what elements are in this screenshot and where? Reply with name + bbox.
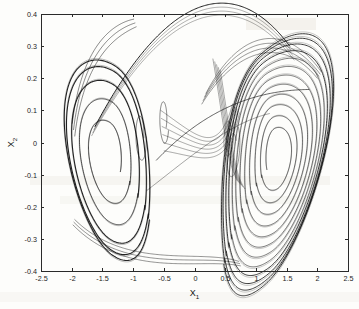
y-tick-label: -0.1 [25, 171, 37, 180]
y-axis-label: X2 [6, 137, 18, 147]
trajectory-segment [242, 83, 313, 238]
trajectory-segment [64, 60, 150, 260]
trajectory-segment [94, 7, 291, 129]
trajectory-segment [66, 65, 149, 256]
x-axis-label: X1 [190, 288, 200, 300]
y-tick-label: 0.4 [27, 10, 37, 19]
trajectory-segment [202, 53, 317, 104]
trajectory-segment [160, 102, 169, 143]
y-tick-label: 0.2 [27, 74, 37, 83]
trajectory-segment [73, 225, 240, 266]
trajectory-segment [88, 120, 130, 204]
x-tick-label: 1 [255, 274, 259, 283]
trajectory-segment [79, 99, 137, 225]
x-tick-label: 1.5 [283, 274, 293, 283]
y-tick-label: 0.3 [27, 42, 37, 51]
x-tick-label: -1.5 [96, 274, 108, 283]
y-tick-label: 0.1 [27, 106, 37, 115]
y-tick-label: -0.2 [25, 203, 37, 212]
trajectory-segment [89, 120, 130, 203]
trajectory-segment [251, 105, 302, 215]
figure-root: -2.5-2-1.5-1-0.500.511.522.5-0.4-0.3-0.2… [0, 0, 359, 309]
trajectory-segment [79, 98, 138, 226]
attractor-trajectory [64, 3, 335, 298]
trajectory-segment [262, 127, 292, 190]
x-tick-label: -2.5 [35, 274, 47, 283]
x-tick-label: 0 [194, 274, 198, 283]
phase-portrait-chart: -2.5-2-1.5-1-0.500.511.522.5-0.4-0.3-0.2… [0, 0, 359, 309]
trajectory-segment [147, 114, 270, 191]
trajectory-segment [72, 19, 133, 123]
y-tick-label: -0.3 [25, 235, 37, 244]
x-tick-label: -0.5 [158, 274, 170, 283]
trajectory-segment [92, 15, 294, 136]
trajectory-segment [161, 104, 233, 138]
y-tick-label: -0.4 [25, 267, 37, 276]
x-tick-label: 2 [316, 274, 320, 283]
x-tick-label: 0.5 [221, 274, 231, 283]
x-tick-label: -1 [130, 274, 136, 283]
trajectory-segment [206, 39, 321, 94]
x-tick-label: 2.5 [344, 274, 354, 283]
x-tick-label: -2 [69, 274, 75, 283]
trajectory-segment [251, 104, 303, 215]
y-tick-label: 0 [33, 139, 37, 148]
